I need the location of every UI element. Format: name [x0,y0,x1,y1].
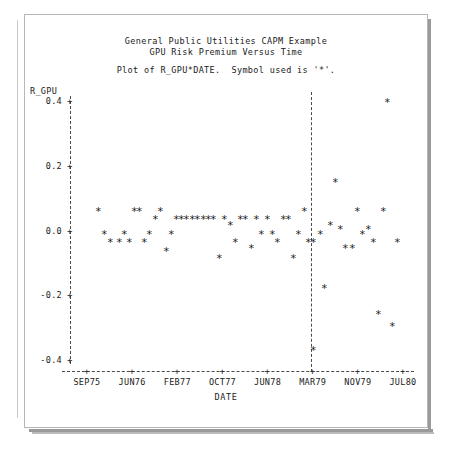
data-point: * [253,214,260,225]
reference-line-mar79 [311,92,312,372]
data-point: * [384,97,391,108]
data-point: * [232,237,239,248]
data-point: * [389,321,396,332]
data-point: * [349,243,356,254]
data-point: * [242,214,249,225]
plot-area: R_GPU 0.40.20.0-0.2-0.4 +++++ SEP75JUN76… [0,0,452,462]
y-tick-mark: + [67,97,72,106]
data-point: * [337,224,344,235]
y-tick-mark: + [67,356,72,365]
x-tick-mark: + [84,367,89,376]
data-point: * [301,206,308,217]
y-axis-label: R_GPU [30,86,57,96]
x-tick-mark: + [400,367,405,376]
data-point: * [317,229,324,240]
data-point: * [227,220,234,231]
y-tick-mark: + [67,227,72,236]
y-tick-label: 0.4 [18,96,62,106]
x-axis-line [62,371,414,372]
data-point: * [163,246,170,257]
y-tick-label: -0.2 [18,290,62,300]
data-point: * [310,237,317,248]
data-point: * [354,206,361,217]
data-point: * [248,243,255,254]
data-point: * [327,220,334,231]
data-point: * [310,345,317,356]
data-point: * [295,229,302,240]
data-point: * [285,214,292,225]
data-point: * [290,253,297,264]
data-point: * [146,229,153,240]
x-tick-mark: + [219,367,224,376]
x-tick-mark: + [129,367,134,376]
data-point: * [136,206,143,217]
data-point: * [126,237,133,248]
data-point: * [264,214,271,225]
x-tick-mark: + [310,367,315,376]
screenshot-canvas: General Public Utilities CAPM Example GP… [0,0,452,462]
data-point: * [321,283,328,294]
data-point: * [210,214,217,225]
data-point: * [342,243,349,254]
data-point: * [370,237,377,248]
data-point: * [216,253,223,264]
x-tick-label: JUL80 [376,377,430,387]
x-tick-mark: + [265,367,270,376]
data-point: * [258,229,265,240]
data-point: * [157,206,164,217]
data-point: * [375,309,382,320]
data-point: * [380,206,387,217]
y-tick-label: 0.2 [18,161,62,171]
y-tick-mark: + [67,162,72,171]
data-point: * [107,237,114,248]
data-point: * [168,229,175,240]
data-point: * [274,237,281,248]
x-tick-mark: + [355,367,360,376]
x-axis-label: DATE [0,392,452,402]
y-tick-label: -0.4 [18,355,62,365]
data-point: * [365,224,372,235]
data-point: * [332,177,339,188]
y-tick-label: 0.0 [18,226,62,236]
data-point: * [394,237,401,248]
y-tick-mark: + [67,291,72,300]
x-tick-mark: + [174,367,179,376]
data-point: * [95,206,102,217]
